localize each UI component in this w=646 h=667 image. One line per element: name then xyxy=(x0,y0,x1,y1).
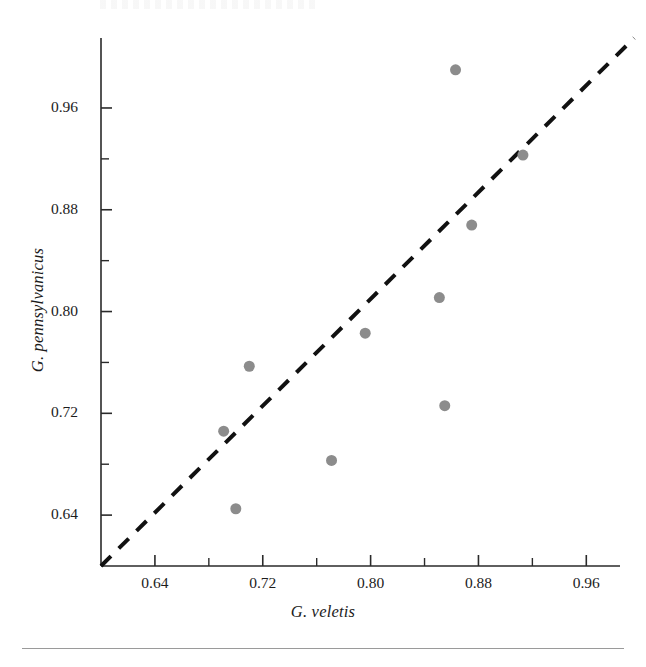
one-to-one-reference-line xyxy=(101,38,634,566)
data-point-series xyxy=(218,64,528,514)
scatter-point xyxy=(466,220,477,231)
scatter-point xyxy=(434,292,445,303)
y-tick-label: 0.72 xyxy=(18,403,78,421)
x-tick-label: 0.88 xyxy=(443,574,513,592)
scatter-point xyxy=(360,328,371,339)
y-axis-title: G. pennsylvanicus xyxy=(28,210,48,410)
scatter-point xyxy=(326,455,337,466)
x-tick-label: 0.64 xyxy=(120,574,190,592)
y-tick-label: 0.96 xyxy=(18,98,78,116)
y-axis-ticks xyxy=(101,108,112,515)
x-tick-label: 0.72 xyxy=(228,574,298,592)
y-tick-label: 0.64 xyxy=(18,505,78,523)
scatter-point xyxy=(450,64,461,75)
scatter-point xyxy=(439,400,450,411)
y-tick-label: 0.80 xyxy=(18,302,78,320)
scatter-plot-canvas xyxy=(0,0,646,667)
footer-divider xyxy=(22,648,624,649)
y-tick-label: 0.88 xyxy=(18,200,78,218)
figure-container: 0.640.720.800.880.96 0.640.720.800.880.9… xyxy=(0,0,646,667)
x-axis-ticks xyxy=(155,555,586,566)
reference-line-path xyxy=(101,38,634,566)
x-tick-label: 0.80 xyxy=(336,574,406,592)
scatter-point xyxy=(230,503,241,514)
scatter-point xyxy=(244,361,255,372)
scatter-point xyxy=(517,150,528,161)
scatter-point xyxy=(218,426,229,437)
x-tick-label: 0.96 xyxy=(551,574,621,592)
x-axis-title: G. veletis xyxy=(0,602,646,622)
